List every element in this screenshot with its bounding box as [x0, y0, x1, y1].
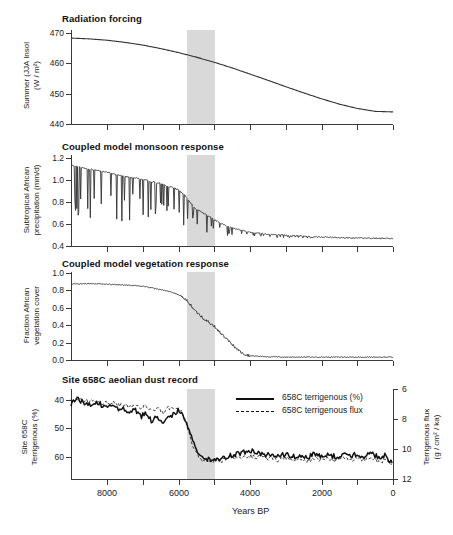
series-vegetation-response — [0, 255, 453, 375]
figure-root: Radiation forcing Summer (JJA Insol (W /… — [0, 0, 453, 535]
series-monsoon-response — [0, 138, 453, 260]
series-radiation-forcing — [0, 0, 453, 140]
panel-monsoon-response: Coupled model monsoon response Subtropic… — [0, 138, 453, 260]
series-dust-record — [0, 372, 453, 535]
panel-dust-record: Site 658C aeolian dust record Site 658C … — [0, 372, 453, 535]
panel-vegetation-response: Coupled model vegetation response Fracti… — [0, 255, 453, 375]
panel-radiation-forcing: Radiation forcing Summer (JJA Insol (W /… — [0, 0, 453, 140]
